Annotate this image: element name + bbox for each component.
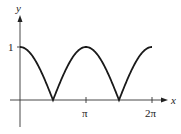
y-axis-label: y [15, 2, 21, 14]
chart: y x 1 π 2π [0, 0, 181, 134]
y-axis-arrow-icon [18, 15, 23, 22]
y-tick-label-one: 1 [8, 41, 14, 53]
curve-abs-cos [20, 47, 152, 100]
x-axis-arrow-icon [161, 98, 168, 103]
x-tick-label-two-pi: 2π [145, 107, 157, 119]
x-axis-label: x [170, 94, 176, 106]
x-tick-label-pi: π [82, 107, 88, 119]
